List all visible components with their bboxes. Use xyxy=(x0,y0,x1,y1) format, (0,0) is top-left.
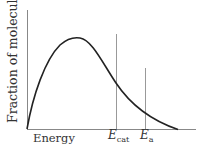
ea-label-main: E xyxy=(140,128,149,142)
distribution-curve xyxy=(27,38,178,130)
x-axis-label: Energy xyxy=(33,131,75,145)
ecat-label-sub: cat xyxy=(117,135,129,144)
y-axis-label: Fraction of molecules xyxy=(5,13,21,123)
ea-label: Ea xyxy=(140,128,154,144)
ecat-label: Ecat xyxy=(108,128,129,144)
ea-label-sub: a xyxy=(149,135,154,144)
chart-plot xyxy=(0,0,210,153)
ecat-label-main: E xyxy=(108,128,117,142)
